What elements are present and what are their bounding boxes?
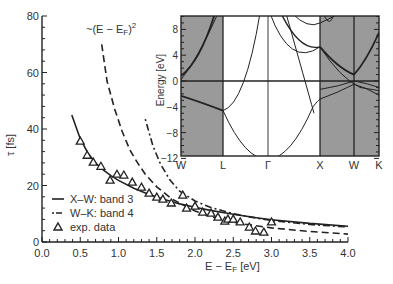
y-tick-label: 80 — [27, 10, 39, 22]
inset-k-label: L — [220, 159, 226, 171]
inset-y-tick-label: 8 — [172, 24, 178, 35]
x-tick-label: 2.0 — [187, 247, 202, 259]
legend-label-band4: W–K: band 4 — [70, 207, 134, 219]
inset-shaded-region — [181, 16, 223, 156]
inset-band-structure: 840−4−8−12WLΓXWK — [161, 13, 383, 171]
data-point — [137, 183, 145, 190]
y-axis-label: τ [fs] — [4, 134, 16, 156]
x-tick-label: 4.0 — [340, 247, 355, 259]
inset-y-tick-label: 4 — [172, 50, 178, 61]
y-tick-label: 40 — [27, 123, 39, 135]
data-point — [260, 228, 268, 235]
x-tick-label: 1.0 — [111, 247, 126, 259]
x-tick-label: 1.5 — [149, 247, 164, 259]
x-tick-label: 0.5 — [73, 247, 88, 259]
legend-label-band3: X–W: band 3 — [70, 193, 133, 205]
data-point — [89, 158, 97, 165]
chart: 0.00.51.01.52.02.53.03.54.0020406080 ~(E… — [0, 0, 393, 284]
inset-y-tick-label: −8 — [167, 128, 179, 139]
legend-label-exp: exp. data — [70, 221, 116, 233]
x-tick-label: 3.5 — [302, 247, 317, 259]
x-axis-label: E − EF [eV] — [205, 260, 260, 274]
data-point — [128, 178, 136, 185]
data-point — [120, 171, 128, 178]
inset-k-label: Γ — [265, 159, 271, 171]
inset-k-label: W — [176, 159, 187, 171]
data-point — [76, 137, 84, 144]
inset-k-label: W — [349, 159, 360, 171]
inset-y-tick-label: 0 — [172, 76, 178, 87]
inset-y-label: Energy [eV] — [155, 54, 166, 106]
legend: X–W: band 3 W–K: band 4 exp. data — [52, 193, 134, 233]
x-tick-label: 2.5 — [226, 247, 241, 259]
data-point — [113, 170, 121, 177]
annotation-label: ~(E − EF)2 — [86, 21, 137, 37]
inset-y-tick-label: −4 — [167, 102, 179, 113]
inset-k-label: K — [375, 159, 383, 171]
inset-k-label: X — [316, 159, 324, 171]
y-tick-label: 0 — [33, 236, 39, 248]
y-tick-label: 20 — [27, 180, 39, 192]
y-tick-label: 60 — [27, 67, 39, 79]
legend-swatch-triangle — [54, 223, 62, 230]
x-tick-label: 3.0 — [264, 247, 279, 259]
x-tick-label: 0.0 — [34, 247, 49, 259]
data-point — [191, 202, 199, 209]
